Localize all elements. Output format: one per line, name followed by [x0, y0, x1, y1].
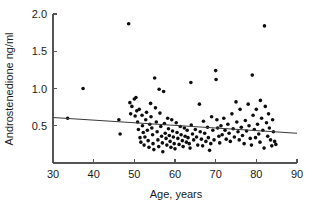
data-point: [151, 142, 155, 146]
data-point: [218, 141, 222, 145]
data-point: [204, 140, 208, 144]
data-point: [161, 141, 165, 145]
data-point: [196, 143, 200, 147]
data-point: [172, 142, 176, 146]
data-point: [117, 118, 121, 122]
data-point: [247, 124, 251, 128]
data-point: [214, 69, 218, 73]
data-point: [188, 146, 192, 150]
x-tick-label: 30: [47, 168, 59, 180]
data-point: [215, 118, 219, 122]
x-axis-title: Age, years: [150, 188, 203, 200]
data-point: [156, 138, 160, 142]
data-point: [173, 147, 177, 151]
data-point: [186, 136, 190, 140]
data-point: [143, 135, 147, 139]
data-point: [226, 122, 230, 126]
data-point: [214, 78, 218, 82]
data-point: [208, 149, 212, 153]
x-tick-label: 50: [128, 168, 140, 180]
data-point: [260, 117, 264, 121]
data-point: [172, 135, 176, 139]
data-point: [137, 128, 141, 132]
data-point: [258, 140, 262, 144]
x-tick-label: 40: [88, 168, 100, 180]
data-point: [159, 125, 163, 129]
data-point: [217, 134, 221, 138]
data-point: [129, 112, 133, 116]
data-point: [176, 137, 180, 141]
data-point: [220, 133, 224, 137]
y-tick-labels: 0.51.01.52.0: [32, 8, 47, 132]
data-point: [137, 108, 141, 112]
data-point: [157, 87, 161, 91]
data-point: [167, 127, 171, 131]
data-point: [274, 143, 278, 147]
data-point: [210, 115, 214, 119]
data-point: [170, 118, 174, 122]
data-point: [237, 138, 241, 142]
data-point: [189, 81, 193, 85]
data-point: [211, 128, 215, 132]
data-point: [141, 124, 145, 128]
data-point: [262, 146, 266, 150]
data-point: [259, 99, 263, 103]
x-tick-label: 60: [169, 168, 181, 180]
y-tick-label: 1.0: [32, 83, 47, 95]
data-point: [248, 137, 252, 141]
data-point: [169, 146, 173, 150]
y-tick-label: 1.5: [32, 45, 47, 57]
data-point: [222, 117, 226, 121]
data-point: [128, 101, 132, 105]
data-point: [263, 105, 267, 109]
data-point: [171, 129, 175, 133]
data-point: [229, 140, 233, 144]
data-point: [164, 137, 168, 141]
data-point: [239, 125, 243, 129]
data-point: [201, 144, 205, 148]
x-tick-label: 90: [291, 168, 303, 180]
data-point: [146, 128, 150, 132]
data-point: [133, 114, 137, 118]
data-point: [233, 135, 237, 139]
data-point: [147, 146, 151, 150]
data-point: [163, 131, 167, 135]
data-point: [238, 108, 242, 112]
data-point: [203, 131, 207, 135]
data-point: [181, 145, 185, 149]
data-point: [155, 130, 159, 134]
data-point: [118, 132, 122, 136]
data-point: [256, 122, 260, 126]
data-point: [269, 138, 273, 142]
data-point: [192, 138, 196, 142]
data-point: [187, 142, 191, 146]
data-point: [166, 117, 170, 121]
data-point: [207, 136, 211, 140]
data-point: [185, 128, 189, 132]
data-point: [200, 137, 204, 141]
data-point: [198, 102, 202, 106]
data-point: [257, 132, 261, 136]
data-point: [242, 142, 246, 146]
data-point: [267, 112, 271, 116]
data-point: [250, 143, 254, 147]
data-point: [150, 126, 154, 130]
data-point: [165, 143, 169, 147]
data-point: [168, 140, 172, 144]
data-point: [246, 102, 250, 106]
data-point: [209, 142, 213, 146]
data-point: [146, 139, 150, 143]
data-point: [142, 143, 146, 147]
data-point: [162, 90, 166, 94]
scatter-plot-figure: 0.51.01.52.0 30405060708090 Age, years A…: [0, 0, 318, 204]
data-point: [271, 118, 275, 122]
data-point: [139, 140, 143, 144]
data-point: [250, 73, 254, 77]
data-point: [144, 118, 148, 122]
data-point: [266, 134, 270, 138]
data-point: [153, 76, 157, 80]
data-point: [154, 120, 158, 124]
y-axis-title: Androstenedione ng/ml: [3, 32, 15, 145]
data-point: [224, 137, 228, 141]
data-point: [236, 130, 240, 134]
